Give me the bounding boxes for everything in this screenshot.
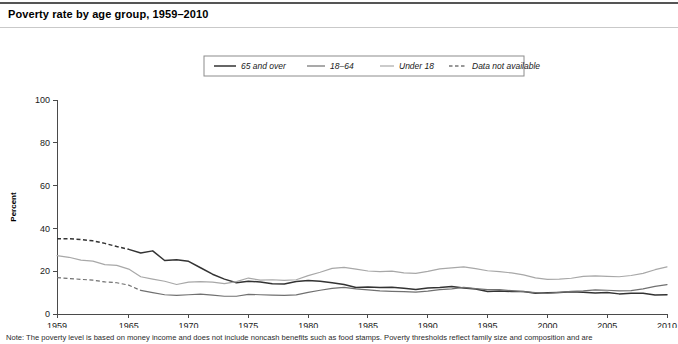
- page-title: Poverty rate by age group, 1959–2010: [8, 8, 208, 20]
- chart-plot-area: 0204060801001959196519701975198019851990…: [0, 28, 678, 328]
- x-axis-tick-label: 1959: [47, 321, 67, 328]
- series-line-65-and-over-unavailable: [57, 239, 129, 250]
- y-axis-tick-label: 80: [40, 138, 50, 148]
- legend-label-18-64: 18–64: [330, 61, 354, 71]
- chart-page: Poverty rate by age group, 1959–2010 020…: [0, 0, 678, 344]
- x-axis-tick-label: 1965: [119, 321, 139, 328]
- legend-label-65-and-over: 65 and over: [241, 61, 287, 71]
- x-axis-tick-label: 2005: [597, 321, 617, 328]
- x-axis-tick-label: 1995: [478, 321, 498, 328]
- y-axis-tick-label: 20: [40, 266, 50, 276]
- poverty-rate-line-chart: 0204060801001959196519701975198019851990…: [0, 28, 678, 328]
- top-divider: [0, 2, 678, 4]
- series-line-under-18: [57, 256, 667, 285]
- y-axis-tick-label: 100: [35, 95, 50, 105]
- y-axis-tick-label: 40: [40, 224, 50, 234]
- x-axis-tick-label: 1985: [358, 321, 378, 328]
- series-line-18–64: [141, 285, 667, 297]
- legend-label-not-available: Data not available: [472, 61, 540, 71]
- series-line-18–64-unavailable: [57, 278, 141, 291]
- chart-footnote: Note: The poverty level is based on mone…: [6, 333, 678, 343]
- x-axis-tick-label: 2010: [657, 321, 677, 328]
- x-axis-tick-label: 1970: [179, 321, 199, 328]
- y-axis-tick-label: 60: [40, 181, 50, 191]
- y-axis-tick-label: 0: [45, 309, 50, 319]
- legend-label-under-18: Under 18: [399, 61, 434, 71]
- x-axis-tick-label: 1980: [298, 321, 318, 328]
- x-axis-tick-label: 2000: [537, 321, 557, 328]
- x-axis-tick-label: 1990: [418, 321, 438, 328]
- y-axis-title: Percent: [9, 192, 18, 222]
- chart-axes: [57, 100, 667, 314]
- x-axis-tick-label: 1975: [238, 321, 258, 328]
